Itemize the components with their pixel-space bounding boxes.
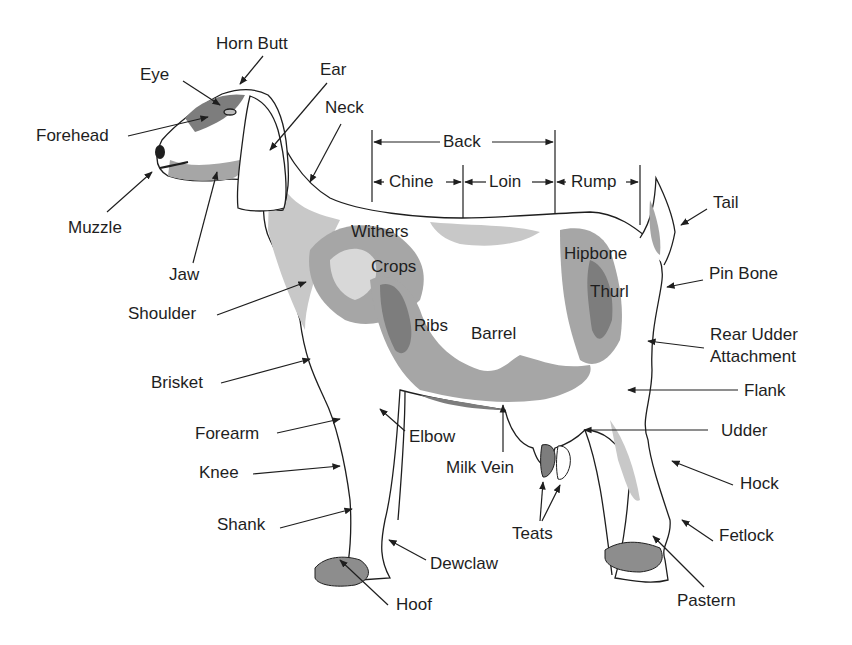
label-rear-udder-attachment: Rear Udder Attachment bbox=[710, 324, 798, 368]
label-forearm: Forearm bbox=[195, 424, 259, 444]
label-loin: Loin bbox=[489, 172, 521, 192]
label-crops: Crops bbox=[371, 257, 416, 277]
label-eye: Eye bbox=[140, 65, 169, 85]
label-udder: Udder bbox=[721, 421, 767, 441]
goat-anatomy-diagram: Horn Butt Eye Ear Forehead Neck Muzzle J… bbox=[0, 0, 852, 645]
label-dewclaw: Dewclaw bbox=[430, 554, 498, 574]
label-teats: Teats bbox=[512, 524, 553, 544]
label-withers: Withers bbox=[351, 222, 409, 242]
label-pin-bone: Pin Bone bbox=[709, 264, 778, 284]
label-pastern: Pastern bbox=[677, 591, 736, 611]
label-ear: Ear bbox=[320, 60, 346, 80]
goat-head bbox=[155, 90, 288, 211]
label-rear-udder-attachment-line1: Rear Udder bbox=[710, 325, 798, 344]
label-milk-vein: Milk Vein bbox=[446, 458, 514, 478]
label-rump: Rump bbox=[571, 172, 616, 192]
label-tail: Tail bbox=[713, 193, 739, 213]
label-thurl: Thurl bbox=[590, 282, 629, 302]
label-elbow: Elbow bbox=[409, 427, 455, 447]
label-barrel: Barrel bbox=[471, 324, 516, 344]
label-ribs: Ribs bbox=[414, 316, 448, 336]
label-shank: Shank bbox=[217, 515, 265, 535]
label-hock: Hock bbox=[740, 474, 779, 494]
label-rear-udder-attachment-line2: Attachment bbox=[710, 347, 796, 366]
goat-teats bbox=[541, 445, 571, 480]
label-flank: Flank bbox=[744, 381, 786, 401]
label-jaw: Jaw bbox=[169, 265, 199, 285]
label-back: Back bbox=[443, 132, 481, 152]
label-forehead: Forehead bbox=[36, 126, 109, 146]
label-chine: Chine bbox=[389, 172, 433, 192]
label-shoulder: Shoulder bbox=[128, 304, 196, 324]
label-hoof: Hoof bbox=[396, 595, 432, 615]
label-muzzle: Muzzle bbox=[68, 218, 122, 238]
label-knee: Knee bbox=[199, 463, 239, 483]
label-neck: Neck bbox=[325, 98, 364, 118]
label-hipbone: Hipbone bbox=[564, 244, 627, 264]
label-brisket: Brisket bbox=[151, 373, 203, 393]
label-fetlock: Fetlock bbox=[719, 526, 774, 546]
label-horn-butt: Horn Butt bbox=[216, 34, 288, 54]
